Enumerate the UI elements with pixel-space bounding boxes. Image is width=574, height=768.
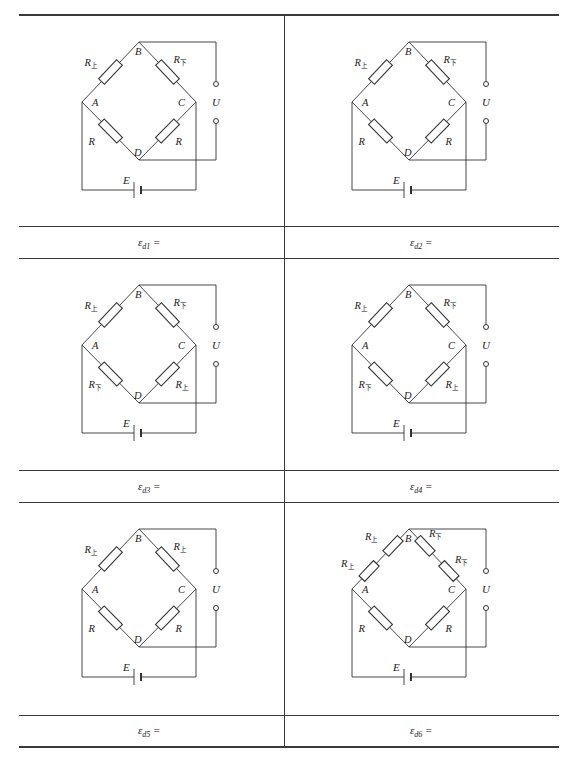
terminal-icon [484, 569, 489, 574]
resistor-label: R上 [84, 544, 98, 556]
resistor-label: R [88, 623, 96, 634]
resistor-label: R上 [354, 57, 368, 69]
node-label-b: B [405, 46, 412, 57]
resistor-label: R下 [358, 379, 372, 392]
resistor-icon [369, 119, 393, 143]
bridge-circuits: UER上R下RRBACDUER上R下RRBACDUER上R下R下R上BACDUE… [0, 0, 574, 768]
resistor-icon [359, 561, 379, 582]
source-voltage-label: E [122, 417, 130, 429]
battery-icon [134, 425, 141, 441]
terminal-icon [214, 82, 219, 87]
resistor-label: R上 [84, 300, 98, 312]
resistor-icon [99, 547, 123, 571]
source-voltage-label: E [392, 174, 400, 186]
resistor-icon [369, 606, 393, 630]
bridge-circuit-4: UER上R下R下R上BACD [352, 285, 491, 441]
resistor-label: R [175, 136, 183, 147]
resistor-label: R上 [175, 379, 189, 391]
resistor-label: R上 [445, 379, 459, 391]
resistor-label: R下 [443, 54, 457, 67]
node-label-b: B [405, 289, 412, 300]
resistor-label: R下 [173, 54, 187, 67]
battery-icon [404, 425, 411, 441]
resistor-label: R上 [364, 531, 378, 543]
battery-icon [134, 182, 141, 198]
resistor-label: R [358, 136, 366, 147]
terminal-icon [214, 119, 219, 124]
node-label-a: A [91, 340, 99, 351]
node-label-d: D [133, 147, 142, 158]
resistor-label: R上 [84, 57, 98, 69]
resistor-label: R [88, 136, 96, 147]
node-label-c: C [448, 340, 456, 351]
resistor-label: R下 [173, 297, 187, 310]
output-voltage-label: U [212, 339, 221, 351]
resistor-icon [99, 362, 123, 386]
source-voltage-label: E [392, 417, 400, 429]
terminal-icon [484, 606, 489, 611]
node-label-c: C [178, 340, 186, 351]
node-label-c: C [448, 97, 456, 108]
bridge-circuit-3: UER上R下R下R上BACD [82, 285, 221, 441]
source-voltage-label: E [122, 174, 130, 186]
terminal-icon [484, 325, 489, 330]
node-label-b: B [405, 533, 412, 544]
resistor-label: R上 [354, 300, 368, 312]
node-label-a: A [91, 584, 99, 595]
node-label-b: B [135, 46, 142, 57]
bridge-circuit-2: UER上R下RRBACD [352, 42, 491, 198]
resistor-label: R下 [428, 528, 442, 541]
terminal-icon [484, 119, 489, 124]
battery-icon [404, 669, 411, 685]
output-voltage-label: U [482, 583, 491, 595]
battery-icon [134, 669, 141, 685]
bridge-circuit-5: UER上R上RRBACD [82, 529, 221, 685]
terminal-icon [214, 362, 219, 367]
resistor-label: R上 [173, 541, 187, 553]
resistor-label: R [445, 136, 453, 147]
resistor-icon [99, 60, 123, 84]
output-voltage-label: U [482, 96, 491, 108]
source-voltage-label: E [392, 661, 400, 673]
node-label-d: D [133, 634, 142, 645]
resistor-icon [369, 60, 393, 84]
battery-icon [404, 182, 411, 198]
node-label-a: A [361, 584, 369, 595]
node-label-d: D [133, 390, 142, 401]
source-voltage-label: E [122, 661, 130, 673]
bridge-circuit-table: εd1 = εd2 = εd3 = εd4 = εd5 = εd6 = UER上… [0, 0, 574, 768]
resistor-icon [369, 362, 393, 386]
resistor-icon [99, 303, 123, 327]
resistor-label: R上 [340, 558, 354, 570]
resistor-icon [99, 119, 123, 143]
terminal-icon [214, 606, 219, 611]
resistor-label: R下 [443, 297, 457, 310]
node-label-a: A [361, 97, 369, 108]
resistor-icon [369, 303, 393, 327]
resistor-icon [383, 535, 403, 556]
node-label-c: C [178, 97, 186, 108]
terminal-icon [484, 82, 489, 87]
node-label-d: D [403, 390, 412, 401]
node-label-d: D [403, 147, 412, 158]
node-label-a: A [91, 97, 99, 108]
output-voltage-label: U [482, 339, 491, 351]
node-label-b: B [135, 533, 142, 544]
output-voltage-label: U [212, 583, 221, 595]
terminal-icon [214, 325, 219, 330]
node-label-a: A [361, 340, 369, 351]
bridge-circuit-6: UER上R上R下R下RRBACD [340, 528, 491, 685]
resistor-icon [99, 606, 123, 630]
resistor-label: R [358, 623, 366, 634]
resistor-label: R下 [88, 379, 102, 392]
node-label-c: C [178, 584, 186, 595]
node-label-d: D [403, 634, 412, 645]
node-label-b: B [135, 289, 142, 300]
resistor-label: R [175, 623, 183, 634]
resistor-label: R [445, 623, 453, 634]
output-voltage-label: U [212, 96, 221, 108]
resistor-label: R下 [454, 554, 468, 567]
node-label-c: C [448, 584, 456, 595]
bridge-circuit-1: UER上R下RRBACD [82, 42, 221, 198]
terminal-icon [214, 569, 219, 574]
